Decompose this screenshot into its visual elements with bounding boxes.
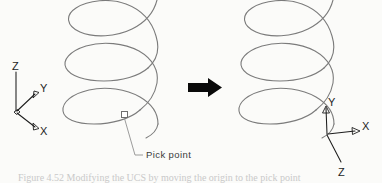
helix-before-tail: [146, 124, 158, 138]
figure-caption-strip: Figure 4.52 Modifying the UCS by moving …: [0, 173, 382, 183]
world-ucs-icon[interactable]: Z Y X: [12, 60, 48, 137]
pick-point-marker[interactable]: [122, 112, 128, 118]
helix-before: [63, 0, 158, 138]
world-ucs-y-arrowhead: [33, 91, 39, 98]
world-ucs-x-label: X: [40, 125, 48, 137]
world-ucs-y-axis: [17, 94, 35, 111]
new-ucs-y-axis: [326, 108, 327, 134]
helix-after-turn-1: [245, 0, 334, 68]
new-ucs-z-axis: [327, 135, 341, 162]
figure-canvas: Pick point Z Y X: [0, 0, 382, 183]
world-ucs-y-label: Y: [40, 82, 48, 94]
new-ucs-y-label: Y: [328, 96, 336, 108]
new-ucs-x-axis: [328, 131, 355, 134]
helix-before-turn-2: [65, 43, 157, 110]
helix-after-turn-2: [241, 43, 333, 110]
ucs-origin-marker: [14, 110, 20, 115]
right-arrow-icon: [188, 78, 222, 97]
helix-after: [239, 0, 334, 138]
figure-caption: Figure 4.52 Modifying the UCS by moving …: [18, 173, 301, 183]
world-ucs-x-axis: [17, 113, 35, 127]
world-ucs-z-label: Z: [12, 60, 19, 72]
pick-point-leader: [125, 119, 144, 156]
new-ucs-x-label: X: [362, 120, 370, 132]
pick-point-label: Pick point: [146, 149, 191, 160]
helix-before-turn-1: [69, 0, 158, 68]
